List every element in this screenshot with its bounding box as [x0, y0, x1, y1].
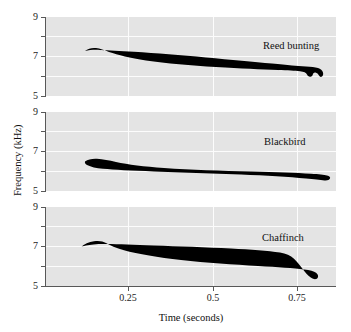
- y-tick-9-p2: [41, 112, 45, 113]
- x-axis-title: Time (seconds): [131, 312, 251, 323]
- x-tick-label-025: 0.25: [108, 293, 148, 303]
- x-tick-025: [128, 287, 129, 291]
- y-tick-label-9-p3: 9: [18, 202, 38, 212]
- plot-area-blackbird: [46, 112, 336, 191]
- x-tick-label-075: 0.75: [277, 293, 317, 303]
- y-tick-8-p3: [41, 226, 45, 227]
- y-tick-8-p1: [41, 36, 45, 37]
- y-tick-5-p3: [41, 286, 45, 287]
- x-tick-label-05: 0.5: [193, 293, 233, 303]
- y-tick-label-7-p2: 7: [18, 146, 38, 156]
- y-axis-line-2: [45, 112, 46, 192]
- y-tick-label-5-p3: 5: [18, 281, 38, 291]
- plot-area-reed-bunting: [46, 17, 336, 96]
- y-tick-label-7-p1: 7: [18, 51, 38, 61]
- y-tick-5-p2: [41, 191, 45, 192]
- y-tick-label-7-p3: 7: [18, 241, 38, 251]
- y-tick-label-5-p2: 5: [18, 186, 38, 196]
- x-tick-075: [297, 287, 298, 291]
- sonogram-trace-blackbird: [46, 112, 336, 191]
- y-tick-9-p3: [41, 207, 45, 208]
- y-tick-6-p1: [41, 76, 45, 77]
- y-tick-8-p2: [41, 131, 45, 132]
- y-axis-line-1: [45, 17, 46, 97]
- y-tick-7-p1: [41, 56, 45, 57]
- sonogram-trace-chaffinch: [46, 207, 336, 286]
- species-label-reed-bunting: Reed bunting: [263, 40, 319, 51]
- sonogram-figure: Frequency (kHz) 9 7 5 Reed bunting: [0, 0, 351, 332]
- y-tick-5-p1: [41, 96, 45, 97]
- plot-area-chaffinch: [46, 207, 336, 286]
- species-label-chaffinch: Chaffinch: [262, 232, 304, 243]
- y-tick-6-p2: [41, 171, 45, 172]
- y-tick-label-5-p1: 5: [18, 91, 38, 101]
- y-tick-7-p3: [41, 246, 45, 247]
- x-tick-05: [213, 287, 214, 291]
- y-tick-9-p1: [41, 17, 45, 18]
- y-tick-label-9-p2: 9: [18, 107, 38, 117]
- x-axis-line: [45, 286, 336, 287]
- sonogram-trace-reed-bunting: [46, 17, 336, 96]
- y-axis-line-3: [45, 207, 46, 287]
- y-tick-7-p2: [41, 151, 45, 152]
- y-tick-6-p3: [41, 266, 45, 267]
- y-tick-label-9-p1: 9: [18, 12, 38, 22]
- species-label-blackbird: Blackbird: [264, 136, 305, 147]
